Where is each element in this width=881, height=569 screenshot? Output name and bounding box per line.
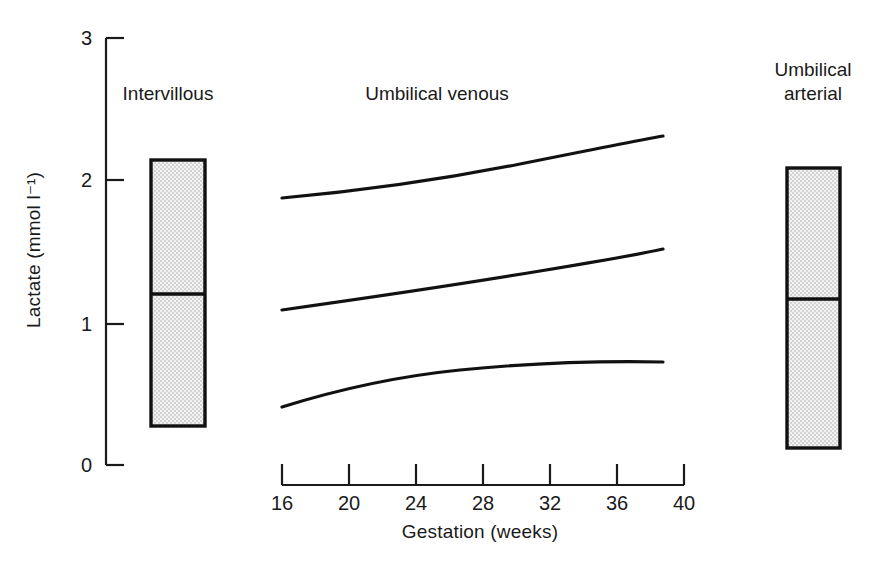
umbilical-venous-lower-curve bbox=[282, 362, 663, 407]
x-tick-label-24: 24 bbox=[405, 492, 427, 515]
y-axis bbox=[106, 38, 124, 465]
umbilical-arterial-box bbox=[787, 168, 840, 448]
y-tick-label-0: 0 bbox=[81, 454, 92, 477]
x-tick-label-28: 28 bbox=[472, 492, 494, 515]
x-tick-label-36: 36 bbox=[606, 492, 628, 515]
x-tick-label-32: 32 bbox=[539, 492, 561, 515]
y-axis-title: Lactate (mmol l⁻¹) bbox=[22, 172, 45, 328]
umbilical-venous-title: Umbilical venous bbox=[365, 82, 509, 106]
umbilical-venous-upper-curve bbox=[282, 136, 663, 198]
umbilical-arterial-title: Umbilical arterial bbox=[774, 58, 851, 106]
umbilical-arterial-title-line2: arterial bbox=[774, 82, 851, 106]
umbilical-arterial-title-line1: Umbilical bbox=[774, 58, 851, 82]
lactate-gestation-figure: 3 2 1 0 16 20 24 28 32 36 40 Lactate (mm… bbox=[0, 0, 881, 569]
umbilical-venous-curves bbox=[282, 136, 663, 407]
x-tick-label-40: 40 bbox=[673, 492, 695, 515]
y-tick-label-3: 3 bbox=[81, 27, 92, 50]
x-axis bbox=[282, 464, 684, 485]
x-tick-label-16: 16 bbox=[271, 492, 293, 515]
y-tick-label-2: 2 bbox=[81, 169, 92, 192]
x-tick-label-20: 20 bbox=[338, 492, 360, 515]
x-axis-title: Gestation (weeks) bbox=[402, 521, 559, 543]
y-tick-label-1: 1 bbox=[81, 313, 92, 336]
intervillous-title: Intervillous bbox=[123, 82, 214, 106]
umbilical-venous-median-curve bbox=[282, 249, 663, 310]
intervillous-box bbox=[151, 160, 205, 426]
